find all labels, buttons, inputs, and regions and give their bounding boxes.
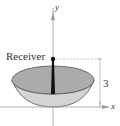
parabolic-dish-diagram <box>0 0 120 126</box>
dimension-arrow-bottom-icon <box>99 102 101 106</box>
receiver-dot <box>51 57 55 61</box>
y-axis-arrow-icon <box>51 12 55 20</box>
height-dimension-label: 3 <box>103 78 109 89</box>
y-axis-label: y <box>55 3 59 12</box>
x-axis-arrow-icon <box>102 105 110 109</box>
receiver-post <box>51 60 55 94</box>
receiver-label: Receiver <box>6 51 45 62</box>
x-axis-label: x <box>111 102 115 111</box>
